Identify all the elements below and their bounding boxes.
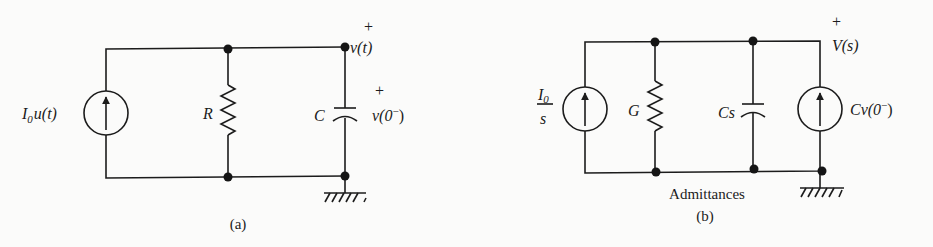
current-source-b [563,87,607,131]
output-voltage-label: v(t) [350,39,372,57]
wires-b [585,41,820,188]
conductance-icon [648,81,662,131]
ground-icon [800,188,844,197]
output-voltage-plus-b: + [832,13,841,30]
conductance-label: G [628,102,640,119]
source-label-b: I0 s [537,86,553,127]
resistor-icon [221,85,235,135]
circuit-b: I0 s G Cs Cv(0−) + V(s) [537,13,893,225]
current-source-a [84,91,128,135]
nodes-b [651,37,827,177]
wires-a [106,47,345,193]
ground-icon [324,193,366,202]
ic-current-source [798,87,842,131]
subtitle-b: Admittances [669,186,745,202]
svg-text:s: s [540,110,546,127]
initial-voltage-plus: + [375,82,384,99]
initial-voltage-label: v(0−) [372,105,404,125]
nodes-a [224,43,350,182]
circuit-a: I0u(t) R C + v(0−) + v(t) [21,18,404,233]
svg-text:I0: I0 [537,86,549,105]
caption-b: (b) [696,208,714,225]
ic-source-label: Cv(0−) [850,99,893,119]
capacitance-label: Cs [718,104,735,121]
circuit-figure: I0u(t) R C + v(0−) + v(t) [0,0,933,247]
resistor-label: R [202,105,213,122]
capacitor-label: C [314,107,325,124]
source-label-a: I0u(t) [21,105,57,125]
output-voltage-plus: + [364,18,373,35]
caption-a: (a) [230,216,247,233]
output-voltage-label-b: V(s) [832,37,859,55]
